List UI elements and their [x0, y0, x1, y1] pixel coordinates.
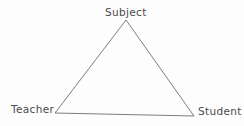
- vertex-label-teacher: Teacher: [11, 104, 54, 115]
- triangle-outline-path: [55, 20, 194, 116]
- triangle-diagram: Subject Teacher Student: [0, 0, 244, 126]
- vertex-label-subject: Subject: [105, 7, 147, 18]
- vertex-label-student: Student: [198, 106, 242, 117]
